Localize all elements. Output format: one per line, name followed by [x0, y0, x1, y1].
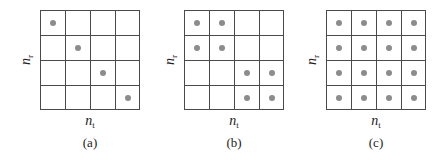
dot-marker	[386, 95, 392, 101]
dot-marker	[336, 45, 342, 51]
grid-line-vertical	[376, 11, 377, 109]
dot-marker	[336, 95, 342, 101]
dot-marker	[411, 20, 417, 26]
grid-line-vertical	[401, 11, 402, 109]
dot-marker	[361, 70, 367, 76]
x-axis-label: nt	[371, 113, 381, 130]
grid-line-horizontal	[327, 85, 425, 86]
dot-marker	[411, 70, 417, 76]
y-axis-label: nr	[304, 55, 321, 65]
dot-marker	[336, 70, 342, 76]
dot-marker	[336, 20, 342, 26]
dot-marker	[411, 95, 417, 101]
dot-marker	[361, 20, 367, 26]
dot-marker	[386, 20, 392, 26]
dot-marker	[361, 95, 367, 101]
panel-caption: (c)	[369, 135, 383, 151]
grid	[326, 10, 426, 110]
panel-c: nr nt (c)	[0, 0, 442, 160]
dot-marker	[386, 45, 392, 51]
dot-marker	[361, 45, 367, 51]
dot-marker	[411, 45, 417, 51]
dot-marker	[386, 70, 392, 76]
